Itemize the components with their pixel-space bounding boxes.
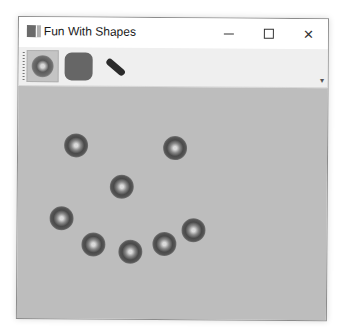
circle-shape[interactable] (181, 218, 205, 242)
rectangle-tool-button[interactable] (63, 50, 95, 82)
circle-shape[interactable] (152, 232, 176, 256)
circle-shape[interactable] (64, 133, 88, 157)
radial-circle-icon (32, 55, 54, 77)
line-tool-button[interactable] (99, 51, 131, 83)
close-button[interactable]: ✕ (289, 19, 329, 49)
window-title: Fun With Shapes (44, 24, 136, 39)
minimize-button[interactable] (209, 18, 249, 48)
circle-shape[interactable] (110, 175, 134, 199)
circle-shape[interactable] (81, 232, 105, 256)
toolbar: ▾ (19, 47, 328, 88)
circle-shape[interactable] (50, 206, 74, 230)
rounded-rectangle-icon (65, 52, 93, 80)
toolbar-overflow-button[interactable]: ▾ (320, 77, 324, 85)
maximize-icon (264, 29, 274, 39)
maximize-button[interactable] (249, 19, 289, 49)
app-window: Fun With Shapes ✕ ▾ (16, 16, 329, 321)
toolbar-grip-handle[interactable] (23, 52, 25, 80)
app-icon (27, 25, 41, 37)
title-bar[interactable]: Fun With Shapes ✕ (19, 17, 328, 49)
circle-tool-button[interactable] (27, 50, 59, 82)
minimize-icon (224, 33, 234, 34)
circle-shape[interactable] (163, 136, 187, 160)
circle-shape[interactable] (118, 240, 142, 264)
drawing-canvas[interactable] (17, 86, 328, 320)
line-icon (105, 57, 126, 77)
close-icon: ✕ (303, 26, 314, 41)
